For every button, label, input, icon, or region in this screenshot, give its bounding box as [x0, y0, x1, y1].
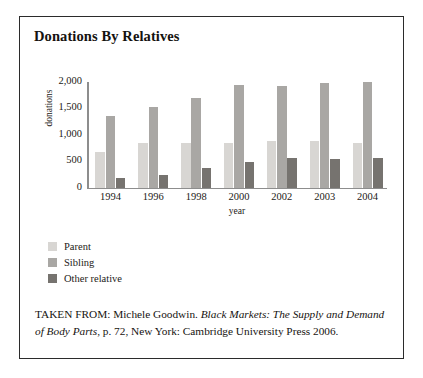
- y-tick-label: 1,000: [36, 128, 82, 139]
- bar-parent: [95, 152, 105, 187]
- bar-other-relative: [287, 158, 297, 188]
- x-tick-label: 2004: [346, 191, 390, 202]
- x-tick-label: 1994: [88, 191, 132, 202]
- x-tick-label: 2003: [303, 191, 347, 202]
- bar-sibling: [363, 82, 373, 188]
- chart-plot-area: donations 05001,0001,5002,000 1994199619…: [30, 57, 395, 217]
- bar-sibling: [106, 116, 116, 187]
- legend-label: Sibling: [64, 257, 94, 268]
- bar-other-relative: [330, 159, 340, 188]
- bar-other-relative: [202, 168, 212, 188]
- bar-other-relative: [245, 162, 255, 187]
- bar-other-relative: [116, 178, 126, 188]
- x-tick-label: 2000: [217, 191, 261, 202]
- bar-sibling: [191, 98, 201, 187]
- bars-layer: [87, 82, 387, 188]
- legend-item: Sibling: [48, 255, 122, 269]
- figure-container: Donations By Relatives donations 05001,0…: [19, 16, 404, 359]
- bar-group: [181, 82, 211, 188]
- bar-parent: [138, 143, 148, 188]
- bar-parent: [181, 143, 191, 188]
- bar-parent: [224, 143, 234, 188]
- bar-sibling: [234, 85, 244, 188]
- caption-prefix: TAKEN FROM: Michele Goodwin.: [35, 308, 201, 320]
- bar-group: [353, 82, 383, 188]
- x-axis-line: [87, 188, 387, 189]
- legend-item: Other relative: [48, 271, 122, 285]
- x-tick-label: 2002: [260, 191, 304, 202]
- x-axis-tick-labels: 1994199619982000200220032004: [87, 191, 387, 207]
- bar-sibling: [277, 86, 287, 188]
- legend-label: Parent: [64, 241, 91, 252]
- y-tick-label: 1,500: [36, 101, 82, 112]
- bar-parent: [353, 143, 363, 187]
- legend-swatch-icon: [48, 274, 57, 283]
- bar-other-relative: [159, 175, 169, 188]
- bar-parent: [310, 141, 320, 188]
- bar-group: [95, 82, 125, 188]
- legend-swatch-icon: [48, 242, 57, 251]
- bar-group: [224, 82, 254, 188]
- chart-legend: ParentSiblingOther relative: [48, 239, 122, 287]
- chart-axes: [87, 82, 387, 189]
- caption-suffix: , p. 72, New York: Cambridge University …: [97, 325, 338, 337]
- bar-sibling: [149, 107, 159, 187]
- bar-group: [138, 82, 168, 188]
- y-tick-label: 500: [36, 154, 82, 165]
- bar-group: [267, 82, 297, 188]
- figure-caption: TAKEN FROM: Michele Goodwin. Black Marke…: [35, 306, 387, 339]
- y-tick-label: 0: [36, 181, 82, 192]
- x-axis-title: year: [87, 206, 387, 216]
- y-axis-tick-labels: 05001,0001,5002,000: [30, 57, 82, 189]
- bar-group: [310, 82, 340, 188]
- x-tick-label: 1998: [174, 191, 218, 202]
- page-title: Donations By Relatives: [34, 28, 180, 45]
- legend-swatch-icon: [48, 258, 57, 267]
- bar-parent: [267, 141, 277, 188]
- y-tick-label: 2,000: [36, 75, 82, 86]
- x-tick-label: 1996: [131, 191, 175, 202]
- legend-label: Other relative: [64, 273, 122, 284]
- bar-other-relative: [373, 158, 383, 188]
- bar-sibling: [320, 83, 330, 188]
- legend-item: Parent: [48, 239, 122, 253]
